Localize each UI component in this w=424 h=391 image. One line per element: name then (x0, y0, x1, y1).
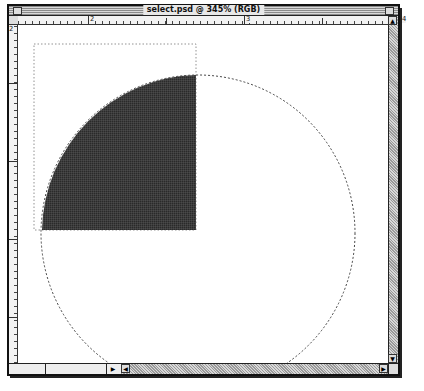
vertical-ruler[interactable]: 2 (9, 25, 18, 363)
scroll-left-arrow-icon[interactable]: ◀ (121, 364, 130, 373)
zoom-box-icon[interactable] (385, 7, 394, 15)
ruler-major-tick (9, 239, 17, 240)
ruler-major-tick (9, 83, 17, 84)
document-window: select.psd @ 345% (RGB) 2 3 4 2 (7, 4, 400, 376)
ruler-label: 2 (9, 26, 13, 33)
close-box-icon[interactable] (13, 7, 22, 15)
title-bar[interactable]: select.psd @ 345% (RGB) (9, 6, 398, 16)
horizontal-scrollbar[interactable]: ◀ ▶ (121, 363, 388, 374)
horizontal-ruler[interactable]: 2 3 4 (18, 16, 388, 25)
image-canvas[interactable] (18, 25, 388, 363)
ruler-major-tick (9, 161, 17, 162)
ruler-mid-tick (166, 18, 167, 24)
ruler-major-tick (88, 16, 89, 24)
ruler-mid-tick (322, 18, 323, 24)
scroll-up-arrow-icon[interactable]: ▲ (388, 16, 397, 25)
status-menu-arrow-icon[interactable]: ▶ (107, 365, 119, 373)
filled-quarter-shape (42, 75, 196, 230)
status-bar: ▶ (9, 363, 121, 374)
resize-grow-box[interactable] (388, 363, 398, 374)
window-title: select.psd @ 345% (RGB) (143, 5, 264, 15)
canvas-artwork (18, 25, 388, 363)
doc-info[interactable] (46, 364, 107, 374)
window-shadow-right (400, 8, 402, 378)
ruler-label: 4 (402, 16, 406, 23)
window-shadow-bottom (10, 376, 402, 378)
ruler-label: 3 (246, 16, 250, 23)
scroll-down-arrow-icon[interactable]: ▼ (388, 354, 397, 363)
ruler-major-tick (9, 317, 17, 318)
zoom-field[interactable] (9, 364, 46, 374)
scroll-right-arrow-icon[interactable]: ▶ (379, 364, 388, 373)
ruler-label: 2 (90, 16, 94, 23)
ruler-major-tick (244, 16, 245, 24)
vertical-scrollbar[interactable]: ▲ ▼ (388, 16, 398, 363)
